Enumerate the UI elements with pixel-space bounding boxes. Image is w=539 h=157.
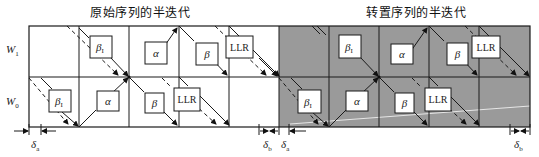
diagram-canvas: βI α β LLR βI α β LLR βI α β LLR βI α β …	[0, 0, 539, 157]
row-label-w0-sub: 0	[15, 102, 19, 110]
label-beta: β	[454, 48, 461, 60]
row-label-w1-sub: 1	[15, 50, 19, 58]
label-beta: β	[203, 48, 210, 60]
label-llr: LLR	[178, 94, 197, 105]
label-alpha: α	[153, 47, 159, 59]
label-llr: LLR	[477, 42, 496, 53]
row-label-w1: W1	[6, 43, 19, 58]
row-label-w0-text: W	[6, 95, 15, 107]
label-beta: β	[401, 97, 408, 109]
delta-b-middle: δb	[263, 138, 272, 153]
delta-sub: b	[268, 145, 272, 153]
junction-right	[378, 76, 381, 79]
label-alpha: α	[354, 95, 360, 107]
sliding-window-bcjr-diagram: βI α β LLR βI α β LLR βI α β LLR βI α β …	[0, 0, 539, 157]
label-alpha: α	[399, 48, 405, 60]
label-llr: LLR	[230, 42, 249, 53]
row-label-w0: W0	[6, 95, 19, 110]
delta-sub: b	[519, 145, 523, 153]
junction-left	[128, 76, 131, 79]
label-llr: LLR	[429, 94, 448, 105]
label-beta: β	[151, 97, 158, 109]
label-alpha: α	[105, 95, 111, 107]
row-label-w1-text: W	[6, 43, 15, 55]
delta-b-right: δb	[514, 138, 523, 153]
delta-sub: a	[286, 145, 289, 153]
delta-sub: a	[36, 145, 39, 153]
delta-a-left: δa	[31, 138, 39, 153]
title-original-sequence: 原始序列的半迭代	[90, 3, 190, 20]
delta-a-middle: δa	[281, 138, 289, 153]
title-transposed-sequence: 转置序列的半迭代	[366, 3, 466, 20]
